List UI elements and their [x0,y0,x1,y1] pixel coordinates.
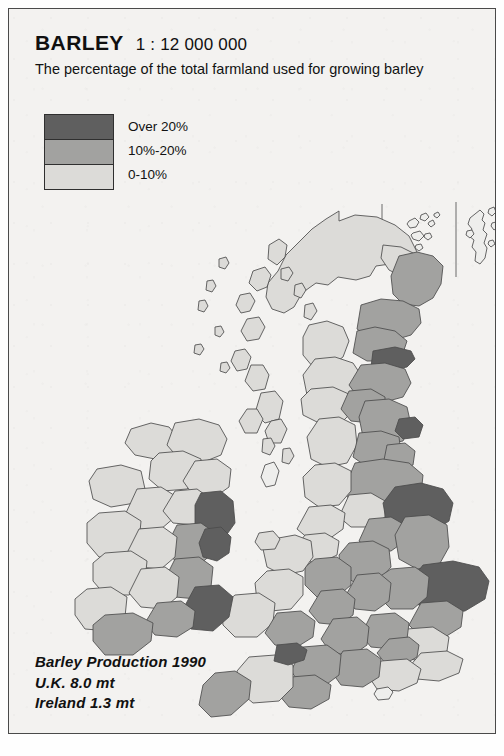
footer-line-ireland: Ireland 1.3 mt [35,693,206,713]
legend-label-10-20: 10%-20% [128,138,188,162]
region-tyne-coast[interactable] [395,417,423,439]
map-scale: 1 : 12 000 000 [136,35,248,55]
footer-line-production: Barley Production 1990 [35,652,206,672]
region-cumbria[interactable] [307,417,357,467]
region-grampian[interactable] [391,252,443,306]
region-cork[interactable] [93,613,153,655]
legend-swatch-column [44,114,114,190]
page-title: BARLEY [35,31,124,55]
map-subtitle: The percentage of the total farmland use… [35,60,424,79]
region-cornwall[interactable] [199,671,251,717]
region-lancashire[interactable] [303,463,351,507]
map-page: BARLEY 1 : 12 000 000 The percentage of … [0,0,504,756]
isle-of-man[interactable] [261,462,279,487]
region-lincolnshire[interactable] [395,515,449,569]
map-paper-panel: BARLEY 1 : 12 000 000 The percentage of … [8,8,496,734]
map-footer: Barley Production 1990 U.K. 8.0 mt Irela… [35,652,206,713]
legend-label-over-20: Over 20% [128,114,188,138]
map-header: BARLEY 1 : 12 000 000 The percentage of … [35,31,424,79]
legend-label-column: Over 20% 10%-20% 0-10% [128,114,188,186]
legend-swatch-over-20[interactable] [45,115,113,140]
legend-label-0-10: 0-10% [128,162,188,186]
legend-wrap: Over 20% 10%-20% 0-10% [44,114,188,190]
region-wicklow[interactable] [199,527,231,561]
map-legend: Over 20% 10%-20% 0-10% [44,114,188,190]
title-row: BARLEY 1 : 12 000 000 [35,31,424,55]
legend-swatch-0-10[interactable] [45,165,113,189]
shetland-inset[interactable] [466,207,496,264]
anglesey[interactable] [255,531,280,550]
footer-line-uk: U.K. 8.0 mt [35,673,206,693]
isle-of-wight[interactable] [374,687,393,700]
legend-swatch-10-20[interactable] [45,140,113,165]
